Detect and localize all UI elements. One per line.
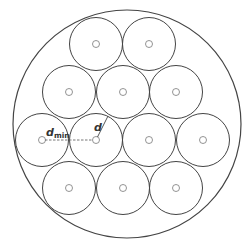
center-point-icon	[93, 137, 100, 144]
inner-circle	[43, 66, 96, 119]
inner-circle	[177, 114, 230, 167]
inner-circle	[150, 66, 203, 119]
center-point-icon	[146, 137, 153, 144]
inner-circle	[123, 114, 176, 167]
center-point-icon	[173, 89, 180, 96]
inner-circle	[16, 114, 69, 167]
center-point-icon	[173, 185, 180, 192]
center-point-icon	[146, 41, 153, 48]
inner-circles	[16, 18, 230, 215]
center-point-icon	[200, 137, 207, 144]
center-point-icon	[120, 185, 127, 192]
inner-circle	[70, 18, 123, 71]
inner-circle	[43, 162, 96, 215]
d-label: d	[94, 121, 102, 134]
inner-circle	[97, 66, 150, 119]
inner-circle	[123, 18, 176, 71]
center-point-icon	[66, 89, 73, 96]
inner-circle	[97, 162, 150, 215]
center-point-icon	[66, 185, 73, 192]
center-point-icon	[120, 89, 127, 96]
center-point-icon	[93, 41, 100, 48]
inner-circle	[150, 162, 203, 215]
center-point-icon	[39, 137, 46, 144]
circle-packing-diagram: dmin d	[0, 0, 243, 248]
